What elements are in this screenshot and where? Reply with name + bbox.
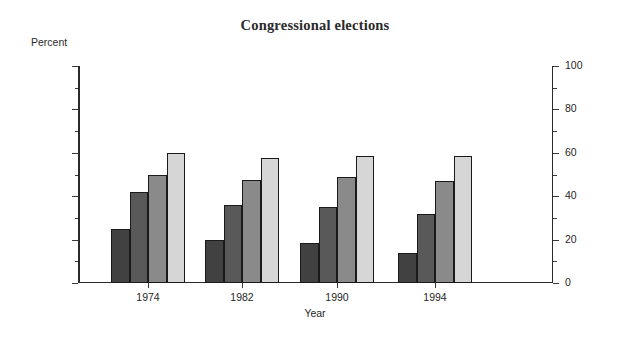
x-axis-tick-label-1982: 1982 [212, 291, 272, 303]
y-axis-left-tick-0 [72, 283, 78, 284]
y-axis-right-tick-80 [553, 109, 559, 110]
bar-1982-series-2 [224, 205, 243, 283]
bar-1994-series-4 [454, 156, 473, 283]
y-axis-right-tick-label-80: 80 [565, 103, 605, 114]
y-axis-left-tick-40 [72, 196, 78, 197]
y-axis-right-tick-10 [553, 261, 557, 262]
y-axis-right-tick-20 [553, 240, 559, 241]
y-axis-right-tick-30 [553, 218, 557, 219]
y-axis-right-tick-label-40: 40 [565, 190, 605, 201]
x-axis-tick-1994 [435, 283, 436, 288]
bar-1994-series-1 [398, 253, 417, 283]
x-axis-tick-1974 [148, 283, 149, 288]
x-axis-tick-1982 [242, 283, 243, 288]
y-axis-left-tick-20 [72, 240, 78, 241]
bar-1974-series-2 [130, 192, 149, 283]
y-axis-right-tick-100 [553, 66, 559, 67]
x-axis-tick-label-1994: 1994 [405, 291, 465, 303]
y-axis-right-tick-label-0: 0 [565, 277, 605, 288]
y-axis-right-tick-label-20: 20 [565, 234, 605, 245]
bar-1974-series-3 [148, 175, 167, 284]
y-axis-right-tick-90 [553, 88, 557, 89]
y-axis-left-tick-60 [72, 153, 78, 154]
y-axis-left-tick-50 [75, 175, 79, 176]
y-axis-right-tick-50 [553, 175, 557, 176]
bar-1974-series-4 [167, 153, 186, 283]
y-axis-left-tick-100 [72, 66, 78, 67]
plot-area [78, 66, 553, 283]
bar-1982-series-1 [205, 240, 224, 283]
x-axis-tick-label-1990: 1990 [307, 291, 367, 303]
bar-1994-series-3 [435, 181, 454, 283]
x-axis-tick-1990 [337, 283, 338, 288]
y-axis-left-tick-80 [72, 109, 78, 110]
y-axis-left-tick-10 [75, 261, 79, 262]
y-axis-left-line [78, 66, 80, 283]
y-axis-left-tick-90 [75, 88, 79, 89]
bar-1982-series-4 [261, 158, 280, 283]
y-axis-right-tick-0 [553, 283, 559, 284]
y-axis-right-tick-70 [553, 131, 557, 132]
bar-1982-series-3 [242, 180, 261, 283]
bar-1974-series-1 [111, 229, 130, 283]
bar-1990-series-1 [300, 243, 319, 283]
y-axis-right-tick-label-60: 60 [565, 147, 605, 158]
chart-title: Congressional elections [0, 17, 630, 34]
y-axis-right-tick-60 [553, 153, 559, 154]
bar-1990-series-4 [356, 156, 375, 283]
bar-1990-series-2 [319, 207, 338, 283]
y-axis-unit-label: Percent [31, 36, 67, 48]
bar-1990-series-3 [337, 177, 356, 283]
y-axis-right-tick-label-100: 100 [565, 60, 605, 71]
x-axis-tick-label-1974: 1974 [118, 291, 178, 303]
y-axis-right-tick-40 [553, 196, 559, 197]
y-axis-left-tick-30 [75, 218, 79, 219]
y-axis-left-tick-70 [75, 131, 79, 132]
x-axis-title: Year [0, 307, 630, 319]
bar-1994-series-2 [417, 214, 436, 283]
